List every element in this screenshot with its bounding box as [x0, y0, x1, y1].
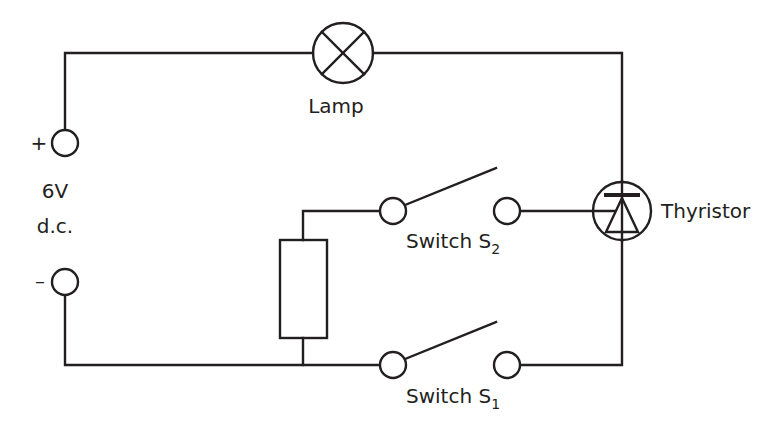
wire-right-lower: [520, 241, 622, 365]
lamp-label: Lamp: [308, 94, 364, 118]
wire-top-left: [65, 53, 313, 130]
wire-resistor-top: [303, 211, 380, 240]
switch-s1-text: Switch S: [406, 384, 491, 408]
wire-top-right: [373, 53, 622, 181]
switch-s2-text: Switch S: [406, 229, 491, 253]
switch-s2-label: Switch S2: [406, 229, 500, 257]
negative-sign: –: [35, 269, 45, 293]
positive-sign: +: [31, 131, 48, 155]
switch-s2-symbol: [380, 168, 520, 224]
supply-voltage-label: 6V: [42, 179, 69, 203]
switch-s1-subscript: 1: [491, 396, 500, 412]
circuit-diagram: Lamp + 6V d.c. – Switch S2 Switch S1 Thy…: [0, 0, 782, 426]
switch-s2-subscript: 2: [491, 241, 500, 257]
negative-terminal: [52, 269, 78, 295]
positive-terminal: [52, 130, 78, 156]
lamp-symbol: [313, 23, 373, 83]
supply-type-label: d.c.: [37, 214, 73, 238]
thyristor-label: Thyristor: [660, 199, 751, 223]
wire-bottom: [65, 295, 380, 365]
switch-s1-symbol: [380, 322, 520, 378]
resistor-symbol: [280, 240, 327, 338]
switch-s1-label: Switch S1: [406, 384, 500, 412]
